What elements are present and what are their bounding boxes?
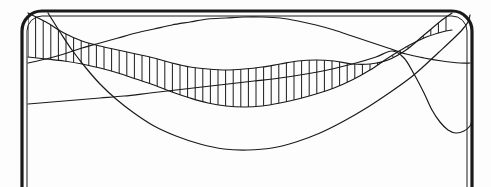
figure-canvas	[0, 0, 491, 187]
figure-container	[0, 0, 491, 187]
figure-background	[0, 0, 491, 187]
